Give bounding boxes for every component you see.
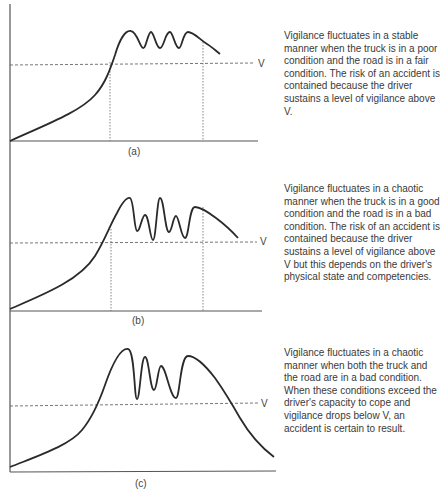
threshold-line-a [10,63,255,65]
threshold-label-a: V [258,58,265,69]
threshold-line-c [10,403,258,406]
panel-a-chart: V (a) [10,31,265,157]
panel-label-c: (c) [135,478,147,489]
panel-label-a: (a) [128,146,140,157]
panel-label-b: (b) [132,315,144,326]
panel-b-chart: V (b) [10,198,267,326]
caption-c: Vigilance fluctuates in a chaotic manner… [284,347,444,435]
caption-a: Vigilance fluctuates in a stable manner … [284,30,444,118]
vigilance-curve-b [10,198,238,309]
threshold-line-b [10,242,257,243]
x-axis-c [10,471,276,472]
threshold-label-c: V [261,398,268,409]
panel-c-chart: V (c) [10,349,276,489]
vigilance-curve-c [10,349,274,467]
vigilance-curve-a [10,31,220,141]
caption-b: Vigilance fluctuates in a chaotic manner… [284,183,444,284]
threshold-label-b: V [260,236,267,247]
